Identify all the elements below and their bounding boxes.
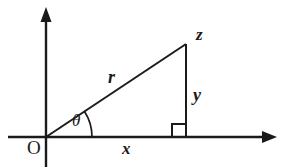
hypotenuse-segment xyxy=(46,44,186,137)
right-angle-marker-icon xyxy=(172,124,186,137)
trigonometry-figure: z r y x θ O xyxy=(0,0,291,167)
y-axis-arrow-icon xyxy=(41,7,52,22)
figure-canvas xyxy=(0,0,291,167)
label-hypotenuse-r: r xyxy=(108,68,115,86)
label-apex-z: z xyxy=(196,26,203,43)
angle-arc-icon xyxy=(85,112,93,138)
label-angle-theta: θ xyxy=(72,112,80,129)
label-origin-o: O xyxy=(27,138,41,157)
label-vertical-leg-y: y xyxy=(193,86,201,104)
x-axis-arrow-icon xyxy=(262,131,277,143)
label-horizontal-leg-x: x xyxy=(122,140,131,157)
